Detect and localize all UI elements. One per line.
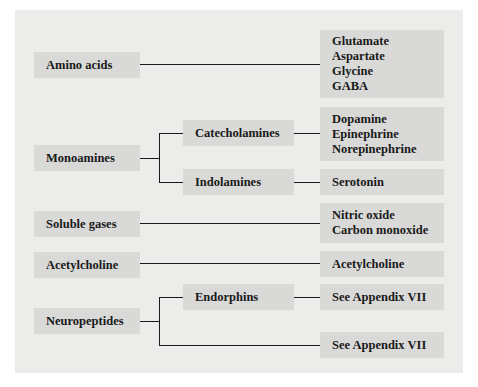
member: Carbon monoxide: [332, 223, 444, 238]
subcategory-label: Catecholamines: [195, 126, 294, 141]
member: Norepinephrine: [332, 142, 444, 157]
connector-neuropeptides-branch: [159, 297, 160, 345]
member: Epinephrine: [332, 127, 444, 142]
member: Dopamine: [332, 112, 444, 127]
subcategory-endorphins: Endorphins: [183, 284, 294, 310]
member: Serotonin: [332, 175, 444, 190]
members-indolamines: Serotonin: [320, 169, 444, 195]
connector-acetylcholine: [140, 263, 320, 264]
connector-indolamines-members: [294, 182, 320, 183]
connector-amino-acids: [140, 64, 320, 65]
connector-endorphins-members: [294, 297, 320, 298]
members-endorphins: See Appendix VII: [320, 284, 444, 310]
connector-neuropeptides-stem: [140, 321, 159, 322]
connector-to-indolamines: [159, 182, 183, 183]
subcategory-catecholamines: Catecholamines: [183, 120, 294, 146]
category-label: Neuropeptides: [46, 314, 140, 329]
member: Glutamate: [332, 34, 444, 49]
members-amino-acids: Glutamate Aspartate Glycine GABA: [320, 30, 444, 98]
member: Acetylcholine: [332, 257, 444, 272]
members-catecholamines: Dopamine Epinephrine Norepinephrine: [320, 107, 444, 161]
member: Nitric oxide: [332, 208, 444, 223]
category-label: Soluble gases: [46, 217, 140, 232]
member: See Appendix VII: [332, 338, 444, 353]
connector-monoamines-branch: [159, 133, 160, 182]
category-neuropeptides: Neuropeptides: [34, 308, 140, 334]
connector-neuropeptides-other: [159, 345, 320, 346]
category-label: Monoamines: [46, 151, 140, 166]
members-acetylcholine: Acetylcholine: [320, 251, 444, 277]
connector-catecholamines-members: [294, 133, 320, 134]
member: Aspartate: [332, 49, 444, 64]
subcategory-indolamines: Indolamines: [183, 169, 294, 195]
connector-soluble-gases: [140, 223, 320, 224]
category-monoamines: Monoamines: [34, 145, 140, 171]
members-soluble-gases: Nitric oxide Carbon monoxide: [320, 203, 444, 243]
member: See Appendix VII: [332, 290, 444, 305]
category-label: Amino acids: [46, 58, 140, 73]
subcategory-label: Indolamines: [195, 175, 294, 190]
member: Glycine: [332, 64, 444, 79]
category-amino-acids: Amino acids: [34, 52, 140, 78]
category-acetylcholine: Acetylcholine: [34, 252, 140, 278]
subcategory-label: Endorphins: [195, 290, 294, 305]
category-soluble-gases: Soluble gases: [34, 211, 140, 237]
category-label: Acetylcholine: [46, 258, 140, 273]
members-neuropeptides-other: See Appendix VII: [320, 332, 444, 358]
connector-monoamines-stem: [140, 158, 159, 159]
connector-to-endorphins: [159, 297, 183, 298]
connector-to-catecholamines: [159, 133, 183, 134]
member: GABA: [332, 79, 444, 94]
